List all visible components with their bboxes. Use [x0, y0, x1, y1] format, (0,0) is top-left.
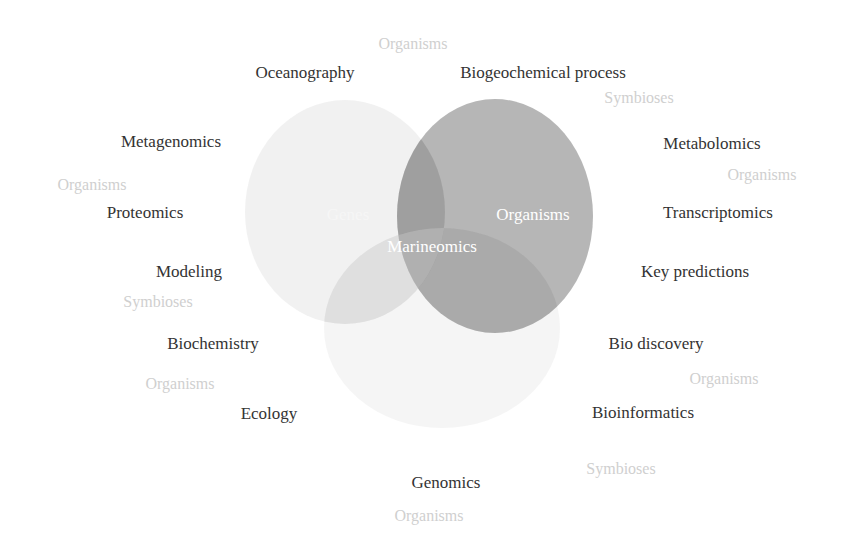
- topic-label: Modeling: [156, 263, 222, 280]
- topic-label: Key predictions: [641, 263, 749, 280]
- ghost-label: Organisms: [145, 376, 214, 392]
- ghost-label: Organisms: [394, 508, 463, 524]
- circle-label-right: Organisms: [496, 206, 569, 223]
- topic-label: Oceanography: [255, 64, 354, 81]
- topic-label: Transcriptomics: [663, 204, 773, 221]
- ghost-label: Symbioses: [586, 461, 655, 477]
- ghost-label: Symbioses: [123, 294, 192, 310]
- topic-label: Biogeochemical process: [460, 64, 626, 81]
- ghost-label: Organisms: [727, 167, 796, 183]
- center-label: Marineomics: [387, 238, 477, 255]
- venn-diagram: Genes Organisms Marineomics Oceanography…: [0, 0, 851, 547]
- circle-label-left: Genes: [327, 206, 369, 223]
- topic-label: Ecology: [241, 405, 298, 422]
- topic-label: Metabolomics: [663, 135, 760, 152]
- topic-label: Biochemistry: [167, 335, 259, 352]
- topic-label: Genomics: [412, 474, 481, 491]
- topic-label: Metagenomics: [121, 133, 221, 150]
- topic-label: Bio discovery: [609, 335, 704, 352]
- ghost-label: Organisms: [57, 177, 126, 193]
- topic-label: Proteomics: [107, 204, 184, 221]
- ghost-label: Organisms: [689, 371, 758, 387]
- topic-label: Bioinformatics: [592, 404, 694, 421]
- ghost-label: Organisms: [378, 36, 447, 52]
- ghost-label: Symbioses: [604, 90, 673, 106]
